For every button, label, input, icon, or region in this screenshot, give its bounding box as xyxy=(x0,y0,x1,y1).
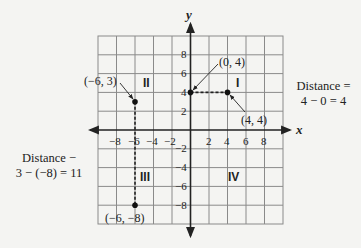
y-tick: −2 xyxy=(175,143,187,154)
y-tick: −8 xyxy=(175,200,187,211)
distance-annotation-line: Distance = xyxy=(286,79,361,94)
y-tick: −6 xyxy=(175,181,187,192)
point-label-neg6-neg8: (−6, −8) xyxy=(105,212,145,224)
y-tick: 8 xyxy=(181,49,187,60)
x-tick: −4 xyxy=(146,136,158,147)
leader-arrow-0-4 xyxy=(193,64,218,90)
quadrant-ii-label: II xyxy=(143,77,150,89)
x-tick: 8 xyxy=(261,136,267,147)
distance-annotation-vertical: Distance − 3 − (−8) = 11 xyxy=(6,151,92,181)
quadrant-i-label: I xyxy=(236,77,239,89)
leader-arrow-4-4 xyxy=(230,95,245,112)
x-tick: 6 xyxy=(243,136,249,147)
quadrant-iii-label: III xyxy=(140,171,150,183)
point-label-neg6-3: (−6, 3) xyxy=(84,75,117,87)
y-tick: 2 xyxy=(181,106,187,117)
distance-annotation-line: 3 − (−8) = 11 xyxy=(6,166,92,181)
distance-annotation-horizontal: Distance = 4 − 0 = 4 xyxy=(286,79,361,109)
point-0-4 xyxy=(188,90,194,96)
y-tick: −4 xyxy=(175,162,187,173)
distance-annotation-line: Distance − xyxy=(6,151,92,166)
x-tick: 4 xyxy=(224,136,230,147)
point-label-4-4: (4, 4) xyxy=(241,114,267,126)
y-tick: 6 xyxy=(181,68,187,79)
y-axis-label: y xyxy=(186,8,192,21)
leader-arrow-neg6-3 xyxy=(120,83,133,99)
x-tick: 2 xyxy=(206,136,212,147)
distance-annotation-line: 4 − 0 = 4 xyxy=(286,94,361,109)
point-neg6-3 xyxy=(132,99,138,105)
x-tick: −2 xyxy=(164,136,176,147)
quadrant-iv-label: IV xyxy=(228,171,239,183)
x-tick: −8 xyxy=(109,136,121,147)
x-axis-label: x xyxy=(296,123,303,136)
point-neg6-neg8 xyxy=(132,202,138,208)
point-4-4 xyxy=(225,90,231,96)
x-tick: −6 xyxy=(128,136,140,147)
y-tick: 4 xyxy=(181,87,187,98)
point-label-0-4: (0, 4) xyxy=(219,56,245,68)
